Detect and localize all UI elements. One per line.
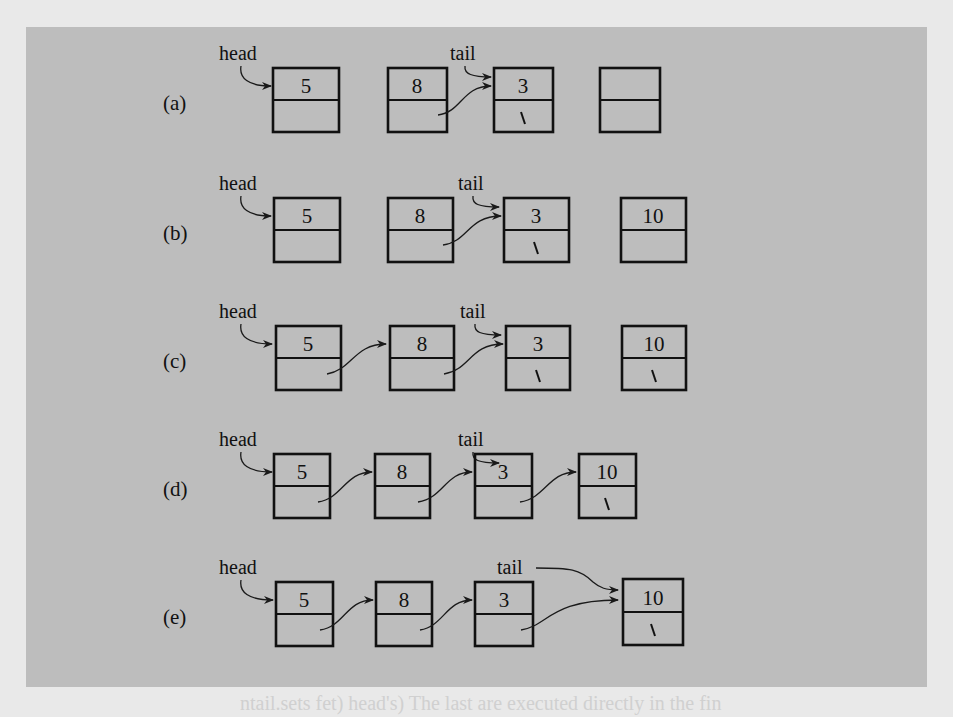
tail-label: tail bbox=[497, 556, 523, 578]
node-value: 3 bbox=[518, 74, 529, 98]
node-3 bbox=[600, 68, 660, 132]
next-pointer-arrow bbox=[418, 472, 472, 502]
next-pointer-arrow bbox=[327, 344, 386, 374]
node-value: 8 bbox=[397, 460, 408, 484]
node-1: 8 bbox=[390, 326, 454, 390]
null-marker bbox=[652, 370, 656, 382]
node-1: 8 bbox=[388, 198, 453, 262]
node-value: 8 bbox=[417, 332, 428, 356]
node-2: 3 bbox=[506, 326, 570, 390]
node-value: 8 bbox=[415, 204, 426, 228]
head-arrow bbox=[241, 196, 271, 216]
row-label: (c) bbox=[163, 349, 186, 373]
row-a: (a) head tail 5 8 3 bbox=[163, 42, 660, 132]
row-label: (a) bbox=[163, 91, 186, 115]
node-value: 5 bbox=[301, 74, 312, 98]
next-pointer-arrow bbox=[521, 600, 618, 630]
node-0: 5 bbox=[274, 198, 340, 262]
row-label: (d) bbox=[163, 477, 188, 501]
node-value: 10 bbox=[597, 460, 618, 484]
head-arrow bbox=[241, 580, 273, 600]
head-label: head bbox=[219, 556, 257, 578]
head-arrow bbox=[241, 324, 272, 344]
tail-arrow bbox=[475, 324, 501, 335]
node-value: 8 bbox=[399, 588, 410, 612]
tail-arrow bbox=[536, 568, 618, 590]
node-2: 3 bbox=[494, 68, 553, 132]
node-value: 3 bbox=[498, 460, 509, 484]
node-value: 8 bbox=[412, 74, 423, 98]
null-marker bbox=[536, 370, 540, 382]
node-value: 3 bbox=[531, 204, 542, 228]
node-1: 8 bbox=[388, 68, 447, 132]
head-label: head bbox=[219, 42, 257, 64]
node-0: 5 bbox=[276, 582, 333, 646]
node-0: 5 bbox=[274, 454, 330, 518]
node-value: 3 bbox=[533, 332, 544, 356]
node-0: 5 bbox=[276, 326, 341, 390]
node-value: 5 bbox=[302, 204, 313, 228]
node-value: 3 bbox=[499, 588, 510, 612]
node-value: 5 bbox=[297, 460, 308, 484]
linked-list-diagram: (a) head tail 5 8 3 (b) head bbox=[0, 0, 953, 717]
next-pointer-arrow bbox=[320, 600, 373, 630]
row-d: (d) head tail 5 8 3 10 bbox=[163, 428, 636, 518]
tail-arrow bbox=[473, 196, 499, 207]
node-3: 10 bbox=[622, 326, 686, 390]
tail-label: tail bbox=[450, 42, 476, 64]
row-label: (b) bbox=[163, 221, 188, 245]
next-pointer-arrow bbox=[520, 472, 576, 502]
node-value: 10 bbox=[643, 586, 664, 610]
tail-label: tail bbox=[458, 172, 484, 194]
node-0: 5 bbox=[273, 68, 339, 132]
next-pointer-arrow bbox=[420, 600, 472, 630]
head-label: head bbox=[219, 172, 257, 194]
row-b: (b) head tail 5 8 3 10 bbox=[163, 172, 686, 262]
row-label: (e) bbox=[163, 605, 186, 629]
tail-label: tail bbox=[460, 300, 486, 322]
node-value: 10 bbox=[643, 204, 664, 228]
node-value: 10 bbox=[644, 332, 665, 356]
next-pointer-arrow bbox=[318, 472, 372, 502]
head-label: head bbox=[219, 428, 257, 450]
tail-arrow bbox=[465, 66, 491, 77]
null-marker bbox=[521, 112, 525, 124]
head-arrow bbox=[241, 66, 271, 86]
node-3: 10 bbox=[621, 198, 686, 262]
head-label: head bbox=[219, 300, 257, 322]
node-1: 8 bbox=[375, 454, 430, 518]
null-marker bbox=[534, 242, 538, 254]
row-e: (e) head tail 5 8 3 10 bbox=[163, 556, 683, 646]
null-marker bbox=[605, 498, 609, 510]
node-3: 10 bbox=[579, 454, 636, 518]
node-2: 3 bbox=[504, 198, 569, 262]
head-arrow bbox=[241, 452, 272, 472]
node-3: 10 bbox=[623, 579, 683, 645]
node-1: 8 bbox=[376, 582, 432, 646]
node-value: 5 bbox=[299, 588, 310, 612]
node-2: 3 bbox=[475, 454, 532, 518]
tail-label: tail bbox=[458, 428, 484, 450]
row-c: (c) head tail 5 8 3 10 bbox=[163, 300, 686, 390]
node-value: 5 bbox=[303, 332, 314, 356]
node-2: 3 bbox=[475, 582, 533, 646]
null-marker bbox=[651, 624, 655, 636]
